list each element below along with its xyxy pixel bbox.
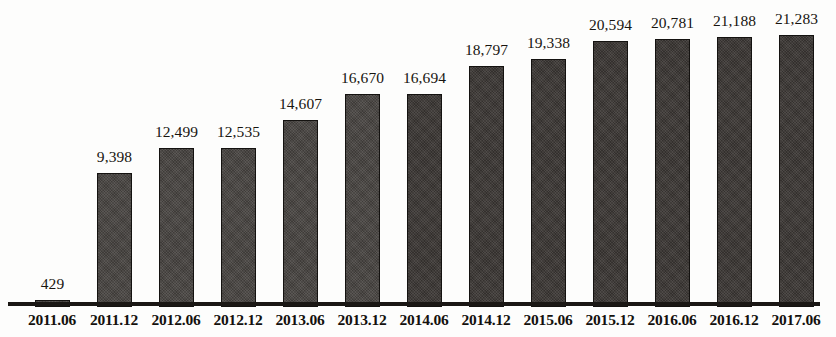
- bar-value-label: 21,283: [775, 10, 818, 28]
- bar: [469, 66, 504, 307]
- bar: [779, 35, 814, 307]
- bar: [97, 173, 132, 307]
- bar: [345, 94, 380, 307]
- x-axis-tick-label: 2015.06: [513, 311, 583, 329]
- bar-chart: 429 9,398 12,499 12,535 14,607 16,670 16…: [0, 0, 836, 337]
- x-axis-tick-label: 2015.12: [575, 311, 645, 329]
- x-axis-tick-label: 2011.06: [17, 311, 87, 329]
- bar: [531, 59, 566, 307]
- bar: [283, 120, 318, 307]
- plot-area: 429 9,398 12,499 12,535 14,607 16,670 16…: [0, 0, 836, 307]
- bar: [593, 41, 628, 307]
- x-axis-tick-label: 2012.06: [141, 311, 211, 329]
- x-axis-tick-label: 2014.12: [451, 311, 521, 329]
- bar-value-label: 14,607: [279, 95, 322, 113]
- bar-value-label: 429: [41, 275, 65, 293]
- bar-value-label: 16,694: [403, 69, 446, 87]
- x-axis-tick-label: 2016.12: [699, 311, 769, 329]
- bar-value-label: 20,781: [651, 14, 694, 32]
- bar: [221, 148, 256, 307]
- bar-value-label: 12,535: [217, 123, 260, 141]
- x-axis-labels: 2011.06 2011.12 2012.06 2012.12 2013.06 …: [0, 311, 836, 337]
- bar-value-label: 21,188: [713, 12, 756, 30]
- bar-value-label: 16,670: [341, 69, 384, 87]
- bar-value-label: 19,338: [527, 34, 570, 52]
- bar-value-label: 20,594: [589, 16, 632, 34]
- bar-value-label: 9,398: [97, 148, 132, 166]
- bar-value-label: 12,499: [155, 123, 198, 141]
- x-axis-tick-label: 2011.12: [79, 311, 149, 329]
- bar: [717, 37, 752, 307]
- bar: [407, 94, 442, 307]
- x-axis-tick-label: 2012.12: [203, 311, 273, 329]
- x-axis-tick-label: 2013.12: [327, 311, 397, 329]
- x-axis-tick-label: 2014.06: [389, 311, 459, 329]
- x-axis-line: [8, 302, 820, 306]
- x-axis-tick-label: 2016.06: [637, 311, 707, 329]
- x-axis-tick-label: 2017.06: [761, 311, 831, 329]
- x-axis-tick-label: 2013.06: [265, 311, 335, 329]
- bar: [655, 39, 690, 307]
- bar-value-label: 18,797: [465, 41, 508, 59]
- bar: [159, 148, 194, 307]
